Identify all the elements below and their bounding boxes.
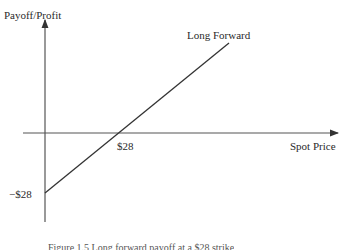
x-axis-label: Spot Price	[290, 140, 336, 152]
chart-canvas	[0, 0, 347, 250]
figure-caption: Figure 1.5 Long forward payoff at a $28 …	[48, 242, 234, 250]
long-forward-line	[45, 43, 229, 193]
y-tick-label: −$28	[9, 188, 32, 200]
x-tick-label: $28	[117, 140, 134, 152]
series-label: Long Forward	[187, 29, 250, 41]
y-axis-label: Payoff/Profit	[4, 9, 61, 21]
